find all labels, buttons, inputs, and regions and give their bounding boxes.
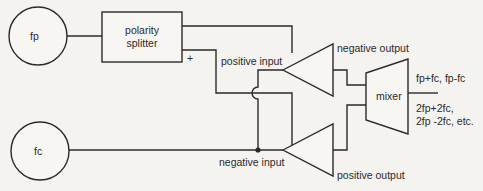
wire-splitter-to-top-amp <box>182 26 292 53</box>
wire-fc-junction-to-top-amp <box>252 70 283 150</box>
output-line1: fp+fc, fp-fc <box>416 72 465 84</box>
fp-source-label: fp <box>30 30 39 42</box>
junction-dot <box>255 147 260 152</box>
splitter-plus-label: + <box>187 52 193 64</box>
output-line2: 2fp+2fc, <box>416 102 454 114</box>
mixer-label: mixer <box>376 90 402 102</box>
bottom-amplifier-triangle <box>283 124 333 176</box>
output-line3: 2fp -2fc, etc. <box>416 115 474 127</box>
fc-source-label: fc <box>34 145 42 157</box>
top-amplifier-triangle <box>283 44 333 96</box>
splitter-label-line1: polarity <box>102 24 182 36</box>
wire-top-amp-to-mixer <box>333 70 366 85</box>
top-amp-output-label: negative output <box>337 42 409 54</box>
wire-bottom-amp-to-mixer <box>333 105 366 150</box>
splitter-label-line2: splitter <box>102 37 182 49</box>
bottom-amp-input-label: negative input <box>219 156 284 168</box>
bottom-amp-output-label: positive output <box>337 169 405 181</box>
top-amp-input-label: positive input <box>221 55 282 67</box>
